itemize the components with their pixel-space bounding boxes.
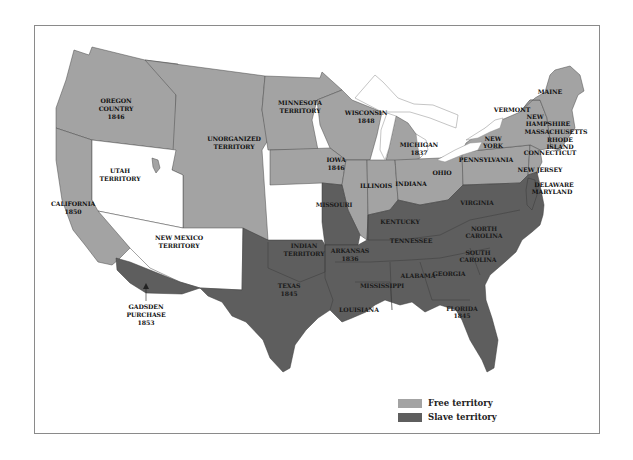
svg-text:HAMPSHIRE: HAMPSHIRE	[526, 120, 571, 127]
svg-text:YORK: YORK	[482, 142, 504, 149]
label-oregon: OREGON	[101, 97, 132, 104]
slave-swatch	[398, 413, 422, 422]
legend-label-slave: Slave territory	[428, 412, 497, 422]
label-utah: UTAH	[110, 167, 130, 174]
svg-text:1853: 1853	[138, 319, 155, 326]
label-rhode-island: RHODE	[547, 136, 573, 143]
label-michigan: MICHIGAN	[400, 141, 439, 148]
svg-text:PURCHASE: PURCHASE	[126, 311, 166, 318]
svg-text:COUNTRY: COUNTRY	[99, 105, 134, 112]
label-ohio: OHIO	[432, 169, 452, 176]
label-tennessee: TENNESSEE	[390, 237, 433, 244]
map-legend: Free territory Slave territory	[398, 396, 497, 424]
label-delaware: DELAWARE	[534, 181, 574, 188]
svg-text:CAROLINA: CAROLINA	[465, 232, 502, 239]
label-alabama: ALABAMA	[400, 272, 436, 279]
svg-text:1850: 1850	[65, 208, 83, 215]
label-indiana: INDIANA	[395, 180, 427, 187]
label-minnesota: MINNESOTA	[278, 99, 322, 106]
label-connecticut: CONNECTICUT	[524, 149, 577, 156]
label-illinois: ILLINOIS	[360, 182, 393, 189]
label-massachusetts: MASSACHUSETTS	[525, 128, 588, 135]
label-texas: TEXAS	[278, 282, 301, 289]
svg-text:TERRITORY: TERRITORY	[280, 107, 322, 114]
label-new-york: NEW	[484, 135, 502, 142]
free-swatch	[398, 399, 422, 408]
svg-text:CAROLINA: CAROLINA	[459, 256, 496, 263]
label-new-mexico: NEW MEXICO	[155, 234, 204, 241]
label-new-jersey: NEW JERSEY	[518, 166, 564, 174]
svg-text:1845: 1845	[454, 312, 471, 319]
svg-text:TERRITORY: TERRITORY	[284, 250, 326, 257]
label-iowa: IOWA	[326, 156, 346, 163]
legend-item-free: Free territory	[398, 396, 497, 410]
label-mississippi: MISSISSIPPI	[360, 282, 404, 289]
label-north-carolina: NORTH	[471, 225, 497, 232]
label-maryland: MARYLAND	[532, 188, 573, 195]
label-virginia: VIRGINIA	[459, 199, 494, 206]
label-pennsylvania: PENNSYLVANIA	[459, 156, 514, 163]
legend-item-slave: Slave territory	[398, 410, 497, 424]
label-arkansas: ARKANSAS	[330, 247, 370, 254]
label-new-hampshire: NEW	[526, 113, 544, 120]
label-south-carolina: SOUTH	[465, 249, 490, 256]
svg-text:1846: 1846	[328, 164, 345, 171]
label-georgia: GEORGIA	[433, 270, 466, 277]
us-territory-map: OREGON COUNTRY 1846 UNORGANIZED TERRITOR…	[0, 0, 633, 460]
svg-text:TERRITORY: TERRITORY	[100, 175, 142, 182]
svg-text:1837: 1837	[411, 149, 428, 156]
svg-text:TERRITORY: TERRITORY	[159, 242, 201, 249]
label-california: CALIFORNIA	[51, 200, 96, 207]
svg-text:TERRITORY: TERRITORY	[214, 143, 256, 150]
label-missouri: MISSOURI	[316, 201, 353, 208]
label-vermont: VERMONT	[493, 106, 531, 113]
label-kentucky: KENTUCKY	[380, 218, 420, 225]
label-unorganized: UNORGANIZED	[207, 135, 261, 142]
label-indian-territory: INDIAN	[291, 242, 318, 249]
svg-text:1846: 1846	[108, 113, 125, 120]
label-florida: FLORIDA	[446, 305, 478, 312]
label-wisconsin: WISCONSIN	[344, 109, 388, 116]
label-maine: MAINE	[538, 88, 563, 95]
label-louisiana: LOUISIANA	[339, 306, 379, 313]
label-gadsden: GADSDEN	[129, 303, 164, 310]
svg-text:1845: 1845	[281, 290, 298, 297]
svg-text:1848: 1848	[358, 117, 375, 124]
svg-text:1836: 1836	[342, 255, 359, 262]
legend-label-free: Free territory	[428, 398, 493, 408]
